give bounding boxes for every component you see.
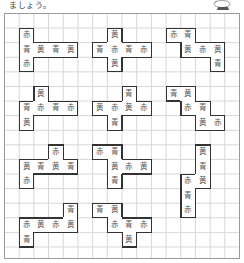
net-outline	[122, 86, 123, 102]
net-face: 青	[48, 101, 63, 116]
net-outline	[180, 174, 196, 175]
net-face: 赤	[107, 42, 122, 57]
net-outline	[195, 115, 196, 131]
net-outline	[63, 159, 79, 160]
net-face: 青	[19, 232, 34, 247]
net-face: 黄	[195, 144, 210, 159]
net-outline	[48, 217, 64, 218]
net-outline	[92, 42, 93, 58]
net-outline	[19, 217, 20, 233]
net-outline	[166, 86, 167, 102]
net-outline	[180, 86, 196, 87]
net-outline	[180, 101, 181, 117]
net-outline	[195, 101, 211, 102]
net-face: 青	[122, 42, 137, 57]
net-outline	[195, 203, 196, 219]
net-outline	[63, 57, 79, 58]
net-face: 黄	[33, 217, 48, 232]
net-outline	[19, 232, 20, 248]
net-face: 赤	[92, 144, 107, 159]
net-outline	[180, 115, 196, 116]
net-outline	[92, 144, 108, 145]
net-outline	[63, 42, 79, 43]
net-outline	[107, 57, 108, 73]
net-outline	[210, 115, 226, 116]
net-face: 青	[122, 86, 137, 101]
net-face: 黄	[210, 42, 225, 57]
net-outline	[122, 217, 138, 218]
net-outline	[121, 28, 122, 44]
mascot-icon	[212, 0, 234, 10]
net-outline	[151, 217, 152, 233]
net-face: 青	[107, 144, 122, 159]
net-outline	[63, 203, 64, 219]
net-outline	[136, 217, 152, 218]
net-outline	[33, 57, 49, 58]
net-outline	[121, 203, 122, 219]
net-outline	[107, 101, 123, 102]
net-face: 黄	[107, 159, 122, 174]
net-outline	[210, 159, 211, 175]
net-face: 赤	[136, 217, 151, 232]
net-outline	[48, 101, 64, 102]
net-outline	[19, 159, 35, 160]
net-face: 黄	[107, 57, 122, 72]
net-outline	[107, 130, 123, 131]
net-outline	[195, 42, 211, 43]
net-face: 青	[180, 28, 195, 43]
net-outline	[33, 42, 49, 43]
net-face: 赤	[107, 217, 122, 232]
net-outline	[19, 101, 20, 117]
net-outline	[136, 232, 152, 233]
net-outline	[19, 57, 20, 73]
net-outline	[195, 130, 211, 131]
net-outline	[19, 115, 20, 131]
net-outline	[122, 42, 138, 43]
net-outline	[77, 101, 78, 117]
net-face: 赤	[63, 101, 78, 116]
net-face: 青	[166, 86, 181, 101]
net-outline	[33, 86, 49, 87]
net-face: 青	[63, 159, 78, 174]
net-outline	[136, 86, 137, 102]
instruction-text: ましょう。	[9, 0, 52, 10]
net-outline	[77, 42, 78, 58]
net-face: 黄	[180, 86, 195, 101]
net-outline	[136, 115, 152, 116]
net-outline	[122, 57, 138, 58]
net-face: 黄	[92, 101, 107, 116]
net-face: 赤	[33, 101, 48, 116]
net-face: 青	[107, 174, 122, 189]
net-outline	[63, 203, 79, 204]
net-outline	[210, 57, 211, 73]
net-outline	[180, 28, 196, 29]
net-outline	[19, 246, 35, 247]
net-outline	[48, 144, 64, 145]
net-outline	[195, 28, 196, 44]
net-outline	[166, 86, 182, 87]
net-outline	[33, 173, 49, 174]
net-face: 青	[48, 42, 63, 57]
net-outline	[48, 144, 49, 160]
net-outline	[92, 203, 108, 204]
net-face: 黄	[122, 101, 137, 116]
net-outline	[107, 188, 123, 189]
net-outline	[210, 174, 211, 190]
net-face: 青	[33, 159, 48, 174]
net-outline	[122, 86, 138, 87]
net-outline	[63, 173, 79, 174]
net-outline	[195, 57, 211, 58]
net-face: 青	[180, 188, 195, 203]
net-face: 赤	[19, 217, 34, 232]
net-face: 黄	[136, 159, 151, 174]
net-outline	[63, 115, 79, 116]
net-outline	[166, 28, 167, 44]
net-outline	[92, 115, 108, 116]
net-outline	[180, 57, 196, 58]
net-face: 黄	[63, 42, 78, 57]
net-outline	[107, 174, 108, 190]
net-outline	[151, 159, 152, 175]
net-face: 青	[210, 57, 225, 72]
net-outline	[77, 159, 78, 175]
net-outline	[107, 203, 123, 204]
